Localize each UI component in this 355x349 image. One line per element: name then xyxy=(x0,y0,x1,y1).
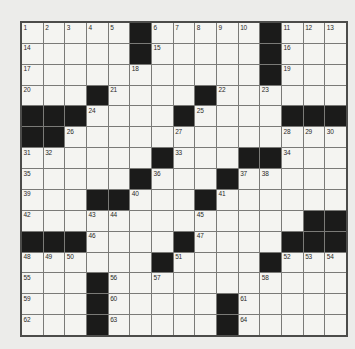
white-cell[interactable]: 31 xyxy=(22,148,43,168)
white-cell[interactable] xyxy=(152,315,173,335)
white-cell[interactable] xyxy=(195,127,216,147)
white-cell[interactable]: 21 xyxy=(109,86,130,106)
white-cell[interactable] xyxy=(239,127,260,147)
white-cell[interactable] xyxy=(239,253,260,273)
white-cell[interactable] xyxy=(109,65,130,85)
white-cell[interactable] xyxy=(195,65,216,85)
white-cell[interactable]: 64 xyxy=(239,315,260,335)
white-cell[interactable]: 62 xyxy=(22,315,43,335)
white-cell[interactable]: 36 xyxy=(152,169,173,189)
white-cell[interactable] xyxy=(65,44,86,64)
white-cell[interactable]: 33 xyxy=(174,148,195,168)
white-cell[interactable] xyxy=(195,44,216,64)
white-cell[interactable]: 5 xyxy=(109,23,130,43)
white-cell[interactable]: 58 xyxy=(260,273,281,293)
white-cell[interactable]: 50 xyxy=(65,253,86,273)
white-cell[interactable]: 47 xyxy=(195,232,216,252)
white-cell[interactable] xyxy=(152,65,173,85)
white-cell[interactable] xyxy=(152,232,173,252)
white-cell[interactable]: 42 xyxy=(22,211,43,231)
white-cell[interactable] xyxy=(174,273,195,293)
white-cell[interactable] xyxy=(152,106,173,126)
white-cell[interactable]: 46 xyxy=(87,232,108,252)
white-cell[interactable] xyxy=(174,86,195,106)
white-cell[interactable] xyxy=(109,127,130,147)
white-cell[interactable]: 61 xyxy=(239,294,260,314)
white-cell[interactable] xyxy=(130,211,151,231)
white-cell[interactable] xyxy=(44,169,65,189)
white-cell[interactable]: 53 xyxy=(304,253,325,273)
white-cell[interactable] xyxy=(304,294,325,314)
white-cell[interactable] xyxy=(65,169,86,189)
white-cell[interactable] xyxy=(195,294,216,314)
white-cell[interactable] xyxy=(87,148,108,168)
white-cell[interactable] xyxy=(130,273,151,293)
white-cell[interactable]: 9 xyxy=(217,23,238,43)
white-cell[interactable] xyxy=(304,44,325,64)
white-cell[interactable]: 3 xyxy=(65,23,86,43)
white-cell[interactable]: 43 xyxy=(87,211,108,231)
white-cell[interactable]: 15 xyxy=(152,44,173,64)
white-cell[interactable] xyxy=(195,315,216,335)
white-cell[interactable] xyxy=(325,315,346,335)
white-cell[interactable]: 45 xyxy=(195,211,216,231)
white-cell[interactable] xyxy=(174,169,195,189)
white-cell[interactable] xyxy=(260,106,281,126)
white-cell[interactable] xyxy=(325,65,346,85)
white-cell[interactable] xyxy=(109,232,130,252)
white-cell[interactable] xyxy=(325,44,346,64)
white-cell[interactable]: 20 xyxy=(22,86,43,106)
white-cell[interactable]: 34 xyxy=(282,148,303,168)
white-cell[interactable] xyxy=(65,211,86,231)
white-cell[interactable] xyxy=(217,127,238,147)
white-cell[interactable]: 25 xyxy=(195,106,216,126)
white-cell[interactable]: 14 xyxy=(22,44,43,64)
white-cell[interactable]: 11 xyxy=(282,23,303,43)
white-cell[interactable] xyxy=(44,211,65,231)
white-cell[interactable] xyxy=(282,211,303,231)
white-cell[interactable] xyxy=(282,294,303,314)
white-cell[interactable] xyxy=(304,86,325,106)
white-cell[interactable] xyxy=(260,127,281,147)
white-cell[interactable] xyxy=(44,315,65,335)
white-cell[interactable] xyxy=(65,65,86,85)
white-cell[interactable] xyxy=(87,65,108,85)
white-cell[interactable]: 41 xyxy=(217,190,238,210)
white-cell[interactable] xyxy=(130,315,151,335)
white-cell[interactable] xyxy=(304,273,325,293)
white-cell[interactable]: 52 xyxy=(282,253,303,273)
white-cell[interactable] xyxy=(130,106,151,126)
white-cell[interactable]: 8 xyxy=(195,23,216,43)
white-cell[interactable]: 2 xyxy=(44,23,65,43)
white-cell[interactable]: 24 xyxy=(87,106,108,126)
white-cell[interactable] xyxy=(239,190,260,210)
white-cell[interactable] xyxy=(109,44,130,64)
white-cell[interactable] xyxy=(174,190,195,210)
white-cell[interactable] xyxy=(44,44,65,64)
white-cell[interactable] xyxy=(195,169,216,189)
white-cell[interactable] xyxy=(260,315,281,335)
white-cell[interactable] xyxy=(44,294,65,314)
white-cell[interactable]: 6 xyxy=(152,23,173,43)
white-cell[interactable] xyxy=(65,315,86,335)
white-cell[interactable] xyxy=(195,148,216,168)
white-cell[interactable] xyxy=(44,273,65,293)
white-cell[interactable] xyxy=(87,44,108,64)
white-cell[interactable] xyxy=(217,65,238,85)
white-cell[interactable] xyxy=(65,86,86,106)
white-cell[interactable] xyxy=(109,253,130,273)
white-cell[interactable] xyxy=(325,148,346,168)
white-cell[interactable]: 48 xyxy=(22,253,43,273)
white-cell[interactable] xyxy=(65,190,86,210)
white-cell[interactable] xyxy=(65,273,86,293)
white-cell[interactable]: 16 xyxy=(282,44,303,64)
white-cell[interactable]: 44 xyxy=(109,211,130,231)
white-cell[interactable] xyxy=(195,273,216,293)
white-cell[interactable] xyxy=(217,273,238,293)
white-cell[interactable] xyxy=(152,86,173,106)
white-cell[interactable] xyxy=(282,315,303,335)
white-cell[interactable] xyxy=(109,148,130,168)
white-cell[interactable] xyxy=(217,106,238,126)
white-cell[interactable] xyxy=(174,211,195,231)
white-cell[interactable] xyxy=(304,315,325,335)
